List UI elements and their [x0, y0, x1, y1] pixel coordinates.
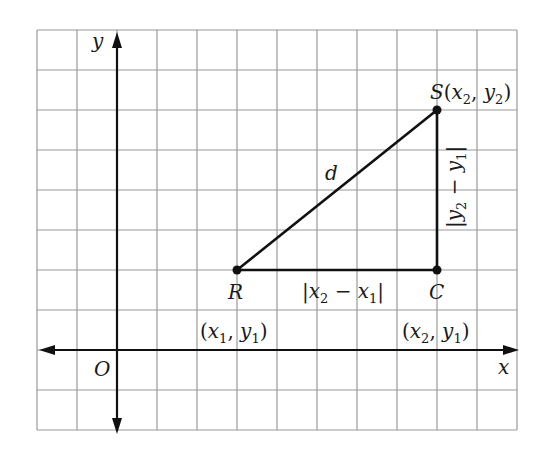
vertical-length-label: |y2 − y1| [442, 146, 469, 228]
x-axis [39, 345, 519, 355]
point-S [433, 106, 442, 115]
point-R [233, 266, 242, 275]
y-axis-label: y [91, 29, 104, 53]
point-S-label: S(x2, y2) [430, 80, 511, 107]
point-R-coords: (x1, y1) [200, 319, 268, 346]
origin-label: O [94, 357, 110, 381]
point-R-label: R [227, 280, 243, 304]
x-axis-label: x [498, 355, 509, 379]
x-axis-left-arrow-icon [39, 345, 55, 355]
y-axis-up-arrow-icon [112, 32, 122, 48]
hypotenuse-label: d [325, 161, 338, 185]
point-C [433, 266, 442, 275]
coordinate-diagram: y x O d S(x2, y2) R (x1, y1) C (x2, y1) … [0, 0, 544, 453]
y-axis [112, 32, 122, 434]
point-C-label: C [429, 280, 444, 304]
point-C-coords: (x2, y1) [402, 319, 470, 346]
horizontal-length-label: |x2 − x1| [302, 279, 384, 306]
y-axis-down-arrow-icon [112, 418, 122, 434]
